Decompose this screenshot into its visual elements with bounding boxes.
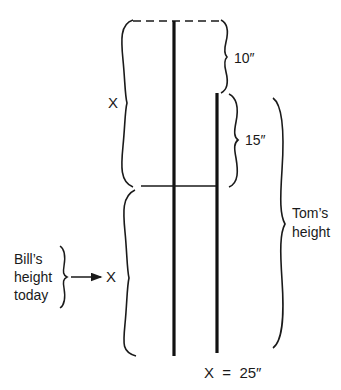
toms-height-brace-icon <box>273 98 285 348</box>
upper-left-brace-icon <box>122 20 133 187</box>
bills-height-brace-icon <box>60 246 67 308</box>
lower-x-label: X <box>106 268 116 285</box>
toms-height-label-line1: Tom’s <box>292 205 328 221</box>
lower-left-brace-icon <box>124 190 136 356</box>
toms-height-label-line2: height <box>292 224 330 240</box>
solution-label: X = 25″ <box>204 364 262 381</box>
fifteen-inch-label: 15″ <box>245 132 266 148</box>
fifteen-inch-brace-icon <box>229 94 238 187</box>
upper-x-label: X <box>108 94 118 111</box>
height-comparison-diagram: X X 10″ 15″ Tom’s height Bill’s height t… <box>0 0 341 390</box>
bills-height-label-line3: today <box>14 287 48 303</box>
ten-inch-brace-icon <box>221 20 227 93</box>
ten-inch-label: 10″ <box>234 50 255 66</box>
bills-height-label-line2: height <box>14 269 52 285</box>
bills-height-label-line1: Bill’s <box>14 251 43 267</box>
